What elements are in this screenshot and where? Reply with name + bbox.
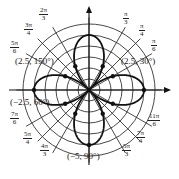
angle-denominator: 6 bbox=[10, 119, 19, 126]
x-axis-arrow-icon bbox=[164, 87, 171, 93]
point-label-p90neg: (−5, 90°) bbox=[67, 152, 100, 161]
angle-denominator: 3 bbox=[40, 151, 49, 158]
point-label-p30: (2.5, 30°) bbox=[121, 57, 155, 66]
angle-denominator: 6 bbox=[148, 121, 160, 128]
plotted-point bbox=[73, 112, 77, 116]
angle-label-a225: 5π4 bbox=[23, 131, 32, 146]
angle-denominator: 6 bbox=[10, 48, 19, 55]
angle-label-a315: 7π4 bbox=[136, 130, 145, 145]
angle-label-a45: π4 bbox=[139, 23, 145, 38]
angle-label-a240: 4π3 bbox=[40, 143, 49, 158]
y-axis-arrow-icon bbox=[86, 6, 92, 13]
angle-denominator: 4 bbox=[136, 138, 145, 145]
plotted-point bbox=[63, 74, 67, 78]
angle-label-a135: 3π4 bbox=[24, 22, 33, 37]
plotted-point bbox=[101, 112, 105, 116]
angle-denominator: 3 bbox=[39, 15, 48, 22]
angle-label-a150: 5π6 bbox=[10, 40, 19, 55]
polar-graph: π3π4π62π33π45π67π65π44π35π37π411π6(2.5, … bbox=[0, 0, 179, 179]
plotted-point bbox=[87, 88, 91, 92]
angle-label-a30: π6 bbox=[151, 38, 157, 53]
angle-denominator: 4 bbox=[24, 30, 33, 37]
angle-denominator: 3 bbox=[122, 151, 131, 158]
plotted-point bbox=[32, 88, 36, 92]
angle-denominator: 6 bbox=[151, 46, 157, 53]
point-label-p60neg: (−2.5, 60°) bbox=[10, 98, 49, 107]
point-label-p150: (2.5, 150°) bbox=[15, 57, 54, 66]
plotted-point bbox=[111, 74, 115, 78]
plotted-point bbox=[142, 88, 146, 92]
plotted-point bbox=[87, 143, 91, 147]
angle-label-a300: 5π3 bbox=[122, 143, 131, 158]
angle-label-a60: π3 bbox=[123, 11, 129, 26]
plotted-point bbox=[63, 102, 67, 106]
plotted-point bbox=[101, 64, 105, 68]
angle-denominator: 4 bbox=[23, 139, 32, 146]
plotted-point bbox=[73, 64, 77, 68]
angle-denominator: 3 bbox=[123, 19, 129, 26]
angle-label-a120: 2π3 bbox=[39, 7, 48, 22]
angle-denominator: 4 bbox=[139, 31, 145, 38]
plotted-point bbox=[111, 102, 115, 106]
angle-label-a330: 11π6 bbox=[148, 113, 160, 128]
angle-label-a210: 7π6 bbox=[10, 111, 19, 126]
